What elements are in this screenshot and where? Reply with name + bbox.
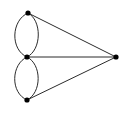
edge-top-middle-right-arc bbox=[27, 13, 38, 57]
vertex-bottom bbox=[24, 97, 29, 102]
vertex-top bbox=[25, 10, 30, 15]
edge-middle-bottom-left-arc bbox=[15, 57, 27, 100]
edge-bottom-right-line bbox=[27, 57, 116, 100]
graph-canvas bbox=[0, 0, 127, 115]
graph-figure bbox=[0, 0, 127, 115]
edge-middle-bottom-right-arc bbox=[27, 57, 38, 100]
edge-top-right-line bbox=[28, 13, 116, 57]
edge-top-middle-left-arc bbox=[15, 13, 28, 57]
vertex-right bbox=[113, 54, 118, 59]
edge-group bbox=[15, 13, 116, 100]
vertex-middle bbox=[24, 54, 29, 59]
